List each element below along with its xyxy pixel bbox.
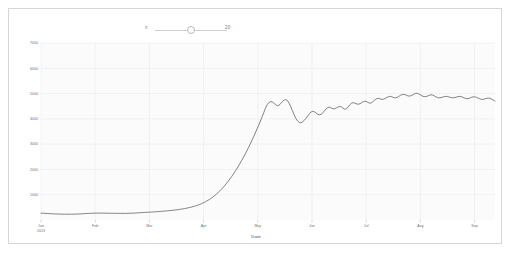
plot-panel-background bbox=[41, 43, 495, 220]
app-card: n 20 1000200030004000500060007000 Jan201… bbox=[8, 8, 502, 244]
x-axis-tick-label: Apr bbox=[201, 224, 207, 228]
x-axis-tick-marks bbox=[41, 220, 475, 223]
y-axis-tick-label: 4000 bbox=[30, 117, 38, 121]
x-axis-tick-label: Jan bbox=[38, 224, 44, 228]
y-axis-tick-label: 1000 bbox=[30, 193, 38, 197]
x-axis-tick-label: Aug bbox=[417, 224, 423, 228]
slider-control-panel: n 20 bbox=[9, 13, 503, 35]
y-axis-tick-label: 7000 bbox=[30, 41, 38, 45]
x-axis-tick-labels: Jan2013FebMarAprMayJunJulAugSep bbox=[37, 224, 478, 233]
y-axis-tick-label: 5000 bbox=[30, 92, 38, 96]
slider-value-label: 20 bbox=[225, 25, 230, 31]
x-axis-tick-label: Mar bbox=[146, 224, 153, 228]
x-axis-tick-label: Sep bbox=[471, 224, 477, 228]
slider-label: n bbox=[145, 25, 148, 31]
x-axis-tick-label: Jun bbox=[309, 224, 315, 228]
y-axis-tick-labels: 1000200030004000500060007000 bbox=[30, 41, 38, 197]
x-axis-tick-label: Feb bbox=[92, 224, 98, 228]
n-slider-handle[interactable] bbox=[187, 26, 195, 34]
y-axis-tick-label: 6000 bbox=[30, 67, 38, 71]
y-axis-tick-label: 3000 bbox=[30, 142, 38, 146]
x-axis-year-label: 2013 bbox=[37, 229, 45, 233]
x-axis-tick-label: May bbox=[254, 224, 261, 228]
x-axis-title: Date bbox=[251, 234, 261, 239]
plot-svg: 1000200030004000500060007000 Jan2013FebM… bbox=[9, 35, 503, 245]
x-axis-tick-label: Jul bbox=[364, 224, 369, 228]
y-axis-tick-label: 2000 bbox=[30, 168, 38, 172]
time-series-plot: 1000200030004000500060007000 Jan2013FebM… bbox=[9, 35, 503, 245]
